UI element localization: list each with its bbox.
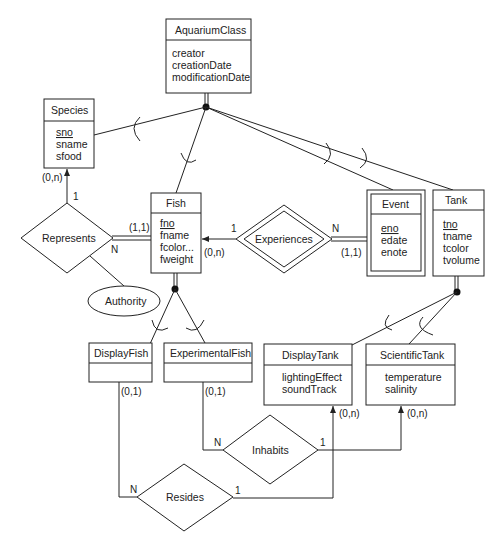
entity-aquarium-class[interactable]: AquariumClass creator creationDate modif… xyxy=(166,19,251,93)
attribute: temperature xyxy=(385,371,442,383)
relationship-experiences[interactable]: 1 (0,n) Experiences N (1,1) xyxy=(202,205,367,273)
attribute: creationDate xyxy=(172,59,232,71)
attribute: tvolume xyxy=(443,254,480,266)
entity-tank[interactable]: Tank tno tname tcolor tvolume xyxy=(433,190,484,276)
attribute: tcolor xyxy=(443,242,469,254)
cardinality-label: N xyxy=(332,223,339,234)
attribute: lightingEffect xyxy=(282,371,342,383)
key-attribute: tno xyxy=(443,218,458,230)
entity-scientific-tank[interactable]: ScientificTank temperature salinity xyxy=(366,344,455,405)
attribute: modificationDate xyxy=(172,71,250,83)
attribute-authority[interactable]: Authority xyxy=(88,286,160,316)
participation-label: (0,n) xyxy=(407,408,428,419)
cardinality-label: N xyxy=(111,244,118,255)
entity-name: ExperimentalFish xyxy=(170,347,251,359)
attribute: soundTrack xyxy=(282,383,337,395)
entity-display-tank[interactable]: DisplayTank lightingEffect soundTrack xyxy=(264,344,352,405)
cardinality-label: 1 xyxy=(231,223,237,234)
generalization-aquarium xyxy=(94,93,453,193)
relationship-represents[interactable]: (0,n) 1 Represents (1,1) N xyxy=(21,169,151,286)
relationship-name: Resides xyxy=(166,491,204,503)
relationship-name: Experiences xyxy=(255,233,313,245)
subset-arc xyxy=(360,148,367,168)
entity-name: Tank xyxy=(445,194,468,206)
subset-arc xyxy=(134,117,140,141)
diagram-canvas: AquariumClass creator creationDate modif… xyxy=(0,0,502,548)
entity-name: Fish xyxy=(166,197,186,209)
attribute: salinity xyxy=(385,383,418,395)
relationship-name: Represents xyxy=(42,232,96,244)
participation-label: (0,n) xyxy=(339,408,360,419)
cardinality-label: N xyxy=(214,437,221,448)
attribute: tname xyxy=(443,230,472,242)
attribute: creator xyxy=(172,47,205,59)
key-attribute: eno xyxy=(381,222,399,234)
attribute: fcolor... xyxy=(160,241,194,253)
specialization-tank xyxy=(352,276,461,345)
key-attribute: sno xyxy=(56,126,73,138)
cardinality-label: 1 xyxy=(73,191,79,202)
attribute: fweight xyxy=(160,253,193,265)
attribute: edate xyxy=(381,234,407,246)
participation-label: (1,1) xyxy=(341,247,362,258)
subset-arc xyxy=(324,143,331,164)
cardinality-label: 1 xyxy=(235,485,241,496)
specialization-fish xyxy=(150,273,205,344)
participation-label: (0,1) xyxy=(121,386,142,397)
attribute: enote xyxy=(381,246,407,258)
participation-label: (0,n) xyxy=(42,172,63,183)
entity-name: DisplayTank xyxy=(282,349,339,361)
cardinality-label: 1 xyxy=(320,437,326,448)
participation-label: (0,n) xyxy=(204,247,225,258)
entity-name: AquariumClass xyxy=(175,24,246,36)
participation-label: (1,1) xyxy=(129,222,150,233)
entity-experimental-fish[interactable]: ExperimentalFish xyxy=(164,343,252,382)
entity-name: Species xyxy=(51,104,88,116)
attribute: sfood xyxy=(56,150,82,162)
participation-label: (0,1) xyxy=(205,386,226,397)
entity-name: ScientificTank xyxy=(380,349,445,361)
er-diagram: AquariumClass creator creationDate modif… xyxy=(0,0,502,548)
entity-name: DisplayFish xyxy=(94,347,148,359)
key-attribute: fno xyxy=(160,217,175,229)
entity-fish[interactable]: Fish fno fname fcolor... fweight xyxy=(151,193,201,273)
attribute: fname xyxy=(160,229,189,241)
entity-species[interactable]: Species sno sname sfood xyxy=(44,99,94,168)
attribute: sname xyxy=(56,138,88,150)
entity-name: Event xyxy=(382,198,409,210)
cardinality-label: N xyxy=(130,484,137,495)
attribute-name: Authority xyxy=(105,295,147,307)
relationship-name: Inhabits xyxy=(252,444,289,456)
entity-event[interactable]: Event eno edate enote xyxy=(367,190,425,276)
entity-display-fish[interactable]: DisplayFish xyxy=(89,343,152,382)
